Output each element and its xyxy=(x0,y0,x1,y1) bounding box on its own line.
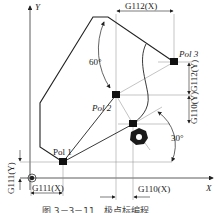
dim-g111-y-label: G111(Y) xyxy=(6,162,16,194)
cutting-tool-icon xyxy=(130,128,148,145)
pol-1-marker xyxy=(59,158,67,165)
pol-1-label: Pol 1 xyxy=(53,147,72,157)
dim-g110-x-label: G110(X) xyxy=(138,184,170,194)
angle-60-label: 60° xyxy=(89,57,102,67)
angle-30-label: 30° xyxy=(171,133,184,143)
workpiece-contour xyxy=(40,17,174,162)
pol-3-marker xyxy=(170,58,178,65)
pol-3-label: Pol 3 xyxy=(178,49,199,59)
y-axis-label: Y xyxy=(35,2,41,12)
dim-g111-x-label: G111(X) xyxy=(32,183,64,193)
dim-g110-y-label: G110(Y) xyxy=(189,92,199,124)
pol-2-label: Pol 2 xyxy=(91,103,112,113)
dim-g112-x-label: G112(X) xyxy=(125,1,157,11)
dim-g112-y-label: G112(Y) xyxy=(189,60,199,92)
angle-60-arc xyxy=(98,22,110,88)
tool-point-marker xyxy=(129,120,137,127)
pole-programming-diagram: Y X xyxy=(0,0,219,213)
pol-2-marker xyxy=(112,91,120,98)
x-axis-label: X xyxy=(205,183,212,193)
figure-caption: 图 3－3－11 极点标编程 xyxy=(42,205,149,213)
